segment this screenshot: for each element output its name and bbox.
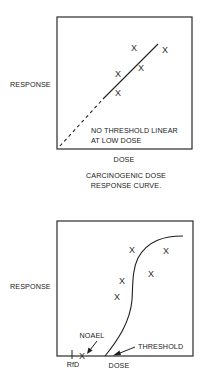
- noael-label: NOAEL: [80, 331, 105, 340]
- top-data-point: X: [115, 69, 121, 79]
- dose-response-figure: RESPONSE X X X X X NO THRESHOLD LINEAR A…: [0, 0, 205, 375]
- top-data-point: X: [131, 43, 137, 53]
- bottom-data-point: X: [148, 269, 154, 279]
- noael-arrow-line: [90, 341, 97, 350]
- rfd-label: RfD: [67, 360, 80, 369]
- bottom-x-axis-label: DOSE: [109, 361, 130, 370]
- threshold-label: THRESHOLD: [138, 342, 183, 351]
- top-x-axis-label: DOSE: [114, 155, 135, 164]
- top-annotation-line1: NO THRESHOLD LINEAR: [91, 126, 178, 135]
- threshold-arrow-head-icon: [113, 351, 121, 356]
- bottom-y-axis-label: RESPONSE: [10, 282, 51, 291]
- top-data-point: X: [138, 63, 144, 73]
- top-data-point: X: [115, 88, 121, 98]
- bottom-data-point: X: [114, 292, 120, 302]
- bottom-data-point: X: [119, 276, 125, 286]
- bottom-plot-frame: [57, 221, 193, 356]
- bottom-data-point: X: [163, 246, 169, 256]
- top-caption-line1: CARCINOGENIC DOSE: [86, 171, 166, 180]
- bottom-data-point: X: [129, 245, 135, 255]
- top-y-axis-label: RESPONSE: [10, 80, 51, 89]
- bottom-panel: RESPONSE X X X X X RfD X NOAEL THRESHOLD…: [10, 221, 193, 370]
- noael-point: X: [79, 351, 85, 361]
- top-panel: RESPONSE X X X X X NO THRESHOLD LINEAR A…: [10, 17, 192, 190]
- top-caption-line2: RESPONSE CURVE.: [91, 181, 161, 190]
- threshold-arrow-line: [120, 347, 135, 353]
- top-annotation-line2: AT LOW DOSE: [91, 136, 141, 145]
- top-data-point: X: [162, 45, 168, 55]
